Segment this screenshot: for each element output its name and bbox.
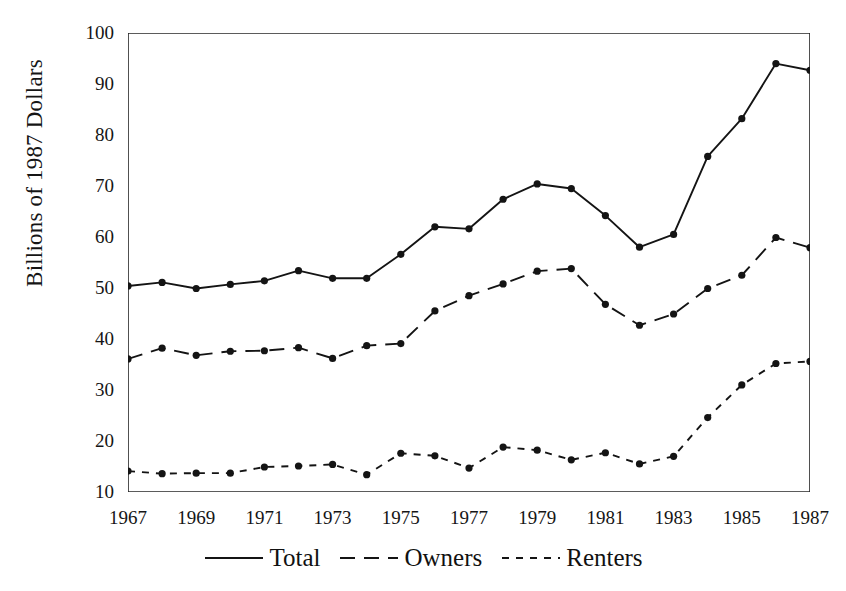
y-tick-label: 60 bbox=[70, 227, 114, 246]
data-point bbox=[363, 275, 370, 282]
legend-label: Total bbox=[269, 545, 320, 570]
data-point bbox=[397, 450, 404, 457]
legend-swatch-dashed-short bbox=[500, 551, 562, 565]
x-tick-label: 1983 bbox=[644, 508, 704, 527]
data-point bbox=[670, 310, 677, 317]
x-tick-label: 1973 bbox=[303, 508, 363, 527]
x-tick-label: 1969 bbox=[166, 508, 226, 527]
data-point bbox=[193, 285, 200, 292]
data-point bbox=[738, 381, 745, 388]
y-tick-label: 20 bbox=[70, 431, 114, 450]
data-point bbox=[772, 60, 779, 67]
data-point bbox=[636, 322, 643, 329]
plot-svg bbox=[128, 33, 810, 492]
data-point bbox=[295, 344, 302, 351]
series-owners bbox=[128, 234, 810, 363]
data-point bbox=[261, 463, 268, 470]
data-point bbox=[193, 470, 200, 477]
top-caption-remnant bbox=[0, 0, 846, 9]
data-point bbox=[465, 464, 472, 471]
data-point bbox=[261, 347, 268, 354]
data-point bbox=[329, 275, 336, 282]
data-point bbox=[500, 444, 507, 451]
data-point bbox=[568, 456, 575, 463]
data-point bbox=[227, 470, 234, 477]
x-tick-label: 1987 bbox=[780, 508, 840, 527]
data-point bbox=[806, 358, 810, 365]
data-point bbox=[397, 251, 404, 258]
y-tick-label: 10 bbox=[70, 482, 114, 501]
data-point bbox=[772, 360, 779, 367]
data-point bbox=[500, 196, 507, 203]
y-tick-label: 90 bbox=[70, 74, 114, 93]
y-tick-label: 80 bbox=[70, 125, 114, 144]
y-tick-label: 70 bbox=[70, 176, 114, 195]
data-point bbox=[193, 352, 200, 359]
data-point bbox=[534, 447, 541, 454]
legend-label: Owners bbox=[404, 545, 482, 570]
y-tick-label: 100 bbox=[70, 23, 114, 42]
y-axis-title: Billions of 1987 Dollars bbox=[22, 8, 48, 338]
legend-item-renters: Renters bbox=[500, 545, 642, 570]
data-point bbox=[568, 265, 575, 272]
legend-swatch-solid bbox=[203, 551, 265, 565]
data-point bbox=[128, 467, 132, 474]
data-point bbox=[602, 301, 609, 308]
data-point bbox=[329, 461, 336, 468]
data-point bbox=[159, 279, 166, 286]
data-point bbox=[261, 277, 268, 284]
data-point bbox=[670, 453, 677, 460]
data-point bbox=[772, 234, 779, 241]
data-point bbox=[329, 355, 336, 362]
data-point bbox=[159, 345, 166, 352]
y-tick-label: 40 bbox=[70, 329, 114, 348]
legend-swatch-dashed-long bbox=[338, 551, 400, 565]
data-point bbox=[431, 223, 438, 230]
data-point bbox=[397, 340, 404, 347]
x-tick-label: 1985 bbox=[712, 508, 772, 527]
data-point bbox=[704, 153, 711, 160]
x-tick-label: 1977 bbox=[439, 508, 499, 527]
x-tick-label: 1967 bbox=[98, 508, 158, 527]
data-point bbox=[636, 460, 643, 467]
x-tick-label: 1979 bbox=[507, 508, 567, 527]
data-point bbox=[602, 212, 609, 219]
series-total bbox=[128, 60, 810, 292]
data-point bbox=[738, 272, 745, 279]
x-tick-label: 1971 bbox=[234, 508, 294, 527]
data-point bbox=[534, 180, 541, 187]
data-point bbox=[704, 414, 711, 421]
data-point bbox=[534, 268, 541, 275]
data-point bbox=[295, 267, 302, 274]
data-point bbox=[738, 115, 745, 122]
chart-legend: TotalOwnersRenters bbox=[0, 545, 846, 570]
data-point bbox=[128, 355, 132, 362]
series-layer bbox=[128, 60, 810, 478]
data-point bbox=[465, 225, 472, 232]
x-tick-label: 1981 bbox=[575, 508, 635, 527]
data-point bbox=[602, 449, 609, 456]
y-tick-label: 30 bbox=[70, 380, 114, 399]
data-point bbox=[363, 342, 370, 349]
data-point bbox=[806, 67, 810, 74]
data-point bbox=[500, 280, 507, 287]
data-point bbox=[295, 462, 302, 469]
data-point bbox=[431, 307, 438, 314]
data-point bbox=[465, 292, 472, 299]
data-point bbox=[159, 470, 166, 477]
data-point bbox=[806, 244, 810, 251]
plot-area bbox=[128, 33, 810, 492]
legend-item-total: Total bbox=[203, 545, 320, 570]
chart-figure: Billions of 1987 Dollars 102030405060708… bbox=[0, 0, 846, 591]
series-renters bbox=[128, 358, 810, 478]
data-point bbox=[363, 471, 370, 478]
axis-frame bbox=[128, 33, 810, 492]
data-point bbox=[227, 348, 234, 355]
data-point bbox=[568, 185, 575, 192]
data-point bbox=[431, 452, 438, 459]
y-tick-label: 50 bbox=[70, 278, 114, 297]
data-point bbox=[128, 282, 132, 289]
tick-marks bbox=[128, 33, 810, 492]
data-point bbox=[670, 231, 677, 238]
x-tick-label: 1975 bbox=[371, 508, 431, 527]
